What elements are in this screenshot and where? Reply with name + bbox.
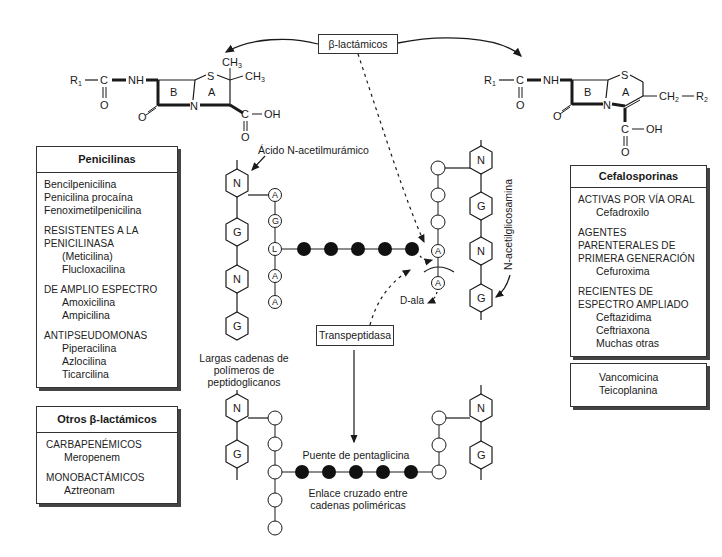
svg-text:O: O [553,110,562,122]
svg-text:C: C [621,123,629,135]
category-label: RESISTENTES A LA PENICILINASA [44,224,169,250]
svg-text:CH2: CH2 [659,90,679,103]
svg-text:A: A [272,297,278,307]
svg-text:N: N [477,245,485,257]
nag-pointer-icon [496,275,510,297]
svg-text:N: N [233,177,241,189]
list-item: Meropenem [46,451,169,464]
arrow-to-cephalosporin-icon [398,38,521,56]
penicillin-structure: R1 C O NH B N O S A CH3 CH3 C OH [70,56,281,143]
peptide-stem-lower-right [432,411,470,479]
ceph-group-extended-spectrum: RECIENTES DE ESPECTRO AMPLIADO Ceftazidi… [578,285,698,350]
list-item: Muchas otras [578,337,698,350]
penicillins-title: Penicilinas [37,147,177,173]
list-item: Amoxicilina [44,296,169,309]
list-item: Ceftriaxona [578,324,698,337]
svg-text:OH: OH [264,108,281,120]
list-item: Cefadroxilo [578,206,698,219]
glycopeptides-box: Vancomicina Teicoplanina [570,363,707,407]
svg-text:C: C [241,108,249,120]
svg-text:A: A [435,246,441,256]
pentaglycine-upper [282,242,419,256]
list-item: Fenoximetilpenicilina [44,204,169,217]
glycan-chain-upper-left: N G N G [226,160,268,340]
label-nam: Ácido N-acetilmurámico [258,144,378,156]
svg-text:S: S [207,70,214,82]
svg-text:L: L [272,244,277,254]
pen-r1: R1 [70,74,82,87]
svg-text:NH: NH [128,74,144,86]
other-group-carbapenems: CARBAPENÉMICOS Meropenem [46,438,169,464]
svg-text:B: B [170,86,177,98]
svg-text:G: G [477,292,486,304]
svg-text:S: S [621,69,628,81]
svg-text:OH: OH [646,123,663,135]
penicillins-group-natural: Bencilpenicilina Penicilina procaína Fen… [44,178,169,217]
svg-text:N: N [603,99,611,111]
dashed-arrow-link-icon [420,256,432,261]
category-label: RECIENTES DE ESPECTRO AMPLIADO [578,285,698,311]
label-chains: Largas cadenas de polímeros de peptidogl… [196,352,292,388]
svg-text:A: A [272,271,278,281]
svg-text:A: A [272,190,278,200]
cephalosporins-title: Cefalosporinas [571,166,706,188]
ceph-group-oral: ACTIVAS POR VÍA ORAL Cefadroxilo [578,193,698,219]
penicillins-group-penicillinase-resistant: RESISTENTES A LA PENICILINASA (Meticilin… [44,224,169,276]
svg-text:CH3: CH3 [245,70,265,83]
peptide-stem-right-upper: A A [424,161,471,290]
peptide-stem-lower-left [268,411,282,535]
list-item: Bencilpenicilina [44,178,169,191]
other-beta-lactams-title: Otros β-lactámicos [37,407,177,433]
list-item: Aztreonam [46,484,169,497]
svg-text:N: N [233,273,241,285]
list-item: Ceftazidima [578,311,698,324]
category-label: DE AMPLIO ESPECTRO [44,283,169,296]
pentaglycine-lower [282,465,432,479]
svg-text:G: G [233,448,242,460]
ceph-r1: R1 [484,74,496,87]
list-item: Piperacilina [44,342,169,355]
svg-text:O: O [100,99,109,111]
svg-text:A: A [208,86,216,98]
ceph-group-parenteral-first-gen: AGENTES PARENTERALES DE PRIMERA GENERACI… [578,226,698,278]
beta-lactam-label: β-lactámicos [318,34,398,54]
list-item: Teicoplanina [571,384,706,397]
svg-text:G: G [233,320,242,332]
label-pentaglycine-bridge: Puente de pentaglicina [296,449,416,461]
svg-text:O: O [241,131,250,143]
peptide-stem-left: A G L A A [269,189,282,309]
svg-text:R2: R2 [696,90,708,103]
svg-text:A: A [622,86,630,98]
list-item: Vancomicina [571,371,706,384]
category-label: ANTIPSEUDOMONAS [44,329,169,342]
label-crosslink: Enlace cruzado entre cadenas poliméricas [306,487,410,511]
penicillins-group-broad-spectrum: DE AMPLIO ESPECTRO Amoxicilina Ampicilin… [44,283,169,322]
list-item: (Meticilina) [44,250,169,263]
penicillins-group-antipseudomonal: ANTIPSEUDOMONAS Piperacilina Azlocilina … [44,329,169,381]
label-dala: D-ala [394,295,430,307]
category-label: AGENTES PARENTERALES DE PRIMERA GENERACI… [578,226,698,265]
category-label: MONOBACTÁMICOS [46,471,169,484]
cephalosporins-box: Cefalosporinas ACTIVAS POR VÍA ORAL Cefa… [570,165,707,357]
list-item: Ampicilina [44,309,169,322]
list-item: Flucloxacilina [44,263,169,276]
svg-text:G: G [477,200,486,212]
svg-text:C: C [100,74,108,86]
svg-text:C: C [516,74,524,86]
penicillins-box: Penicilinas Bencilpenicilina Penicilina … [36,146,178,388]
svg-text:NH: NH [543,74,559,86]
svg-text:N: N [477,402,485,414]
glycan-chain-lower-right: N G [470,385,492,480]
arrow-to-penicillin-icon [226,39,318,52]
svg-text:O: O [138,111,147,123]
glycan-chain-upper-right: N G N G [470,140,492,320]
svg-text:CH3: CH3 [222,56,242,69]
svg-text:N: N [190,100,198,112]
svg-text:N: N [233,402,241,414]
category-label: CARBAPENÉMICOS [46,438,169,451]
category-label: ACTIVAS POR VÍA ORAL [578,193,698,206]
list-item: Azlocilina [44,355,169,368]
svg-text:N: N [477,154,485,166]
label-nag: N-acetilglicosamina [502,179,514,270]
list-item: Ticarcilina [44,368,169,381]
